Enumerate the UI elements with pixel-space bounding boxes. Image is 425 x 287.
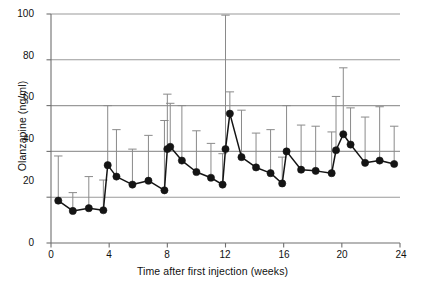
data-point [100,207,107,214]
data-point [219,181,226,188]
data-point [376,157,383,164]
data-point [178,157,185,164]
data-point [113,173,120,180]
plot-canvas [0,0,425,287]
data-point [226,110,233,117]
data-point [145,177,152,184]
data-point [347,141,354,148]
data-point [161,187,168,194]
data-point [362,159,369,166]
data-point [391,160,398,167]
data-point [283,148,290,155]
data-point [328,170,335,177]
data-point [167,143,174,150]
data-point [222,146,229,153]
data-point [279,180,286,187]
data-point [238,154,245,161]
data-point [85,205,92,212]
data-point [267,170,274,177]
data-point [193,168,200,175]
data-point [298,166,305,173]
data-point [332,147,339,154]
axes-spines [47,14,401,248]
data-point [312,167,319,174]
data-point [55,197,62,204]
data-point [104,162,111,169]
data-points [55,110,398,215]
data-point [340,131,347,138]
data-point [129,181,136,188]
chart-figure: Olanzapine (ng/ml) 100 80 60 40 20 0 0 4… [0,0,425,287]
data-point [252,164,259,171]
data-point [69,207,76,214]
data-point [207,174,214,181]
